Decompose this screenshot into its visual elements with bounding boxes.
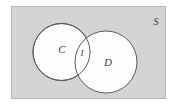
- venn-diagram-canvas: C I D S: [0, 0, 178, 107]
- label-set-c: C: [58, 43, 66, 55]
- label-universe-s: S: [154, 16, 159, 27]
- label-set-d: D: [103, 56, 112, 68]
- venn-diagram-figure: C I D S: [0, 0, 178, 107]
